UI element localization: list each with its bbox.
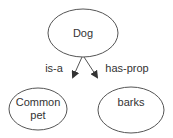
edge-has-prop-label: has-prop bbox=[105, 62, 148, 74]
node-barks: barks bbox=[98, 87, 164, 133]
edge-has-prop: has-prop bbox=[84, 57, 149, 77]
node-barks-label: barks bbox=[118, 96, 145, 108]
node-common-pet-label-line1: Common bbox=[16, 96, 61, 108]
diagram-canvas: Dog is-a has-prop Common pet barks bbox=[0, 0, 173, 138]
arrow-has-prop-icon bbox=[84, 57, 97, 77]
semantic-network-diagram: Dog is-a has-prop Common pet barks bbox=[0, 0, 173, 138]
node-dog-label: Dog bbox=[73, 27, 93, 39]
node-common-pet-label-line2: pet bbox=[30, 109, 45, 121]
node-common-pet: Common pet bbox=[9, 88, 67, 130]
edge-is-a-label: is-a bbox=[45, 62, 64, 74]
node-dog: Dog bbox=[48, 9, 118, 57]
edge-is-a: is-a bbox=[45, 57, 82, 77]
arrow-is-a-icon bbox=[73, 57, 82, 77]
